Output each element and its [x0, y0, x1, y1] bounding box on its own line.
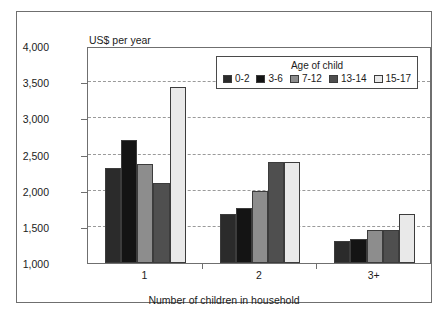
- bar: [367, 230, 383, 263]
- legend-swatch: [329, 75, 338, 83]
- bar: [350, 239, 366, 263]
- x-category-label: 3+: [368, 269, 380, 281]
- y-axis-title: US$ per year: [89, 34, 151, 46]
- bar: [121, 140, 137, 263]
- legend-item: 0-2: [223, 73, 249, 84]
- x-category-label: 2: [256, 269, 262, 281]
- y-tick-label: 3,000: [3, 113, 49, 125]
- bar: [252, 191, 268, 263]
- legend-label: 3-6: [268, 73, 282, 84]
- bar: [220, 214, 236, 263]
- legend-title: Age of child: [223, 60, 411, 71]
- bar: [268, 162, 284, 263]
- y-tick-label: 3,500: [3, 77, 49, 89]
- y-tick-label: 1,500: [3, 222, 49, 234]
- legend-label: 15-17: [386, 73, 412, 84]
- legend-swatch: [290, 75, 299, 83]
- bar: [153, 183, 169, 263]
- bar: [170, 87, 186, 263]
- legend-label: 13-14: [341, 73, 367, 84]
- legend-swatch: [374, 75, 383, 83]
- bar: [383, 230, 399, 263]
- legend-label: 0-2: [235, 73, 249, 84]
- x-axis-title: Number of children in household: [17, 294, 431, 306]
- legend-swatch: [256, 75, 265, 83]
- legend-item: 15-17: [374, 73, 412, 84]
- bar: [399, 214, 415, 263]
- bar: [105, 168, 121, 263]
- legend-item: 3-6: [256, 73, 282, 84]
- legend-item: 7-12: [290, 73, 322, 84]
- x-tick-mark: [202, 264, 203, 269]
- bar: [284, 162, 300, 263]
- bar: [137, 164, 153, 263]
- y-tick-label: 2,500: [3, 150, 49, 162]
- y-tick-label: 4,000: [3, 41, 49, 53]
- bar: [236, 208, 252, 263]
- legend-items: 0-23-67-1213-1415-17: [223, 73, 411, 84]
- legend-label: 7-12: [302, 73, 322, 84]
- legend-swatch: [223, 75, 232, 83]
- y-tick-label: 1,000: [3, 258, 49, 270]
- legend-item: 13-14: [329, 73, 367, 84]
- x-category-label: 1: [141, 269, 147, 281]
- chart-figure-frame: US$ per year 1,0001,5002,0002,5003,0003,…: [16, 11, 432, 303]
- y-tick-label: 2,000: [3, 186, 49, 198]
- x-tick-mark: [316, 264, 317, 269]
- bar: [334, 241, 350, 263]
- legend: Age of child 0-23-67-1213-1415-17: [216, 56, 418, 89]
